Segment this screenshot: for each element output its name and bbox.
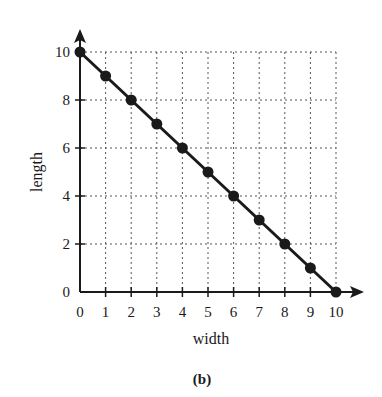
y-tick-label: 10: [55, 44, 70, 60]
data-point: [100, 71, 111, 82]
axes: [74, 29, 364, 298]
x-tick-label: 8: [281, 304, 289, 320]
x-tick-label: 10: [329, 304, 344, 320]
y-tick-label: 2: [63, 236, 71, 252]
x-tick-label: 9: [307, 304, 315, 320]
y-tick-label: 8: [63, 92, 71, 108]
data-point: [151, 119, 162, 130]
tick-labels: 0123456789100246810: [55, 44, 344, 320]
data-point: [228, 191, 239, 202]
x-tick-label: 7: [255, 304, 263, 320]
x-tick-label: 2: [127, 304, 135, 320]
line-chart: 0123456789100246810 length width (b): [0, 0, 382, 397]
data-point: [177, 143, 188, 154]
data-point: [203, 167, 214, 178]
y-axis-label: length: [28, 152, 46, 192]
figure-caption: (b): [193, 371, 211, 388]
x-axis-label: width: [193, 330, 229, 347]
x-tick-label: 1: [102, 304, 110, 320]
y-tick-label: 4: [63, 188, 71, 204]
data-point: [75, 47, 86, 58]
x-tick-label: 6: [230, 304, 238, 320]
x-tick-label: 5: [204, 304, 212, 320]
y-tick-label: 0: [63, 284, 71, 300]
data-point: [254, 215, 265, 226]
data-point: [305, 263, 316, 274]
data-point: [331, 287, 342, 298]
data-point: [279, 239, 290, 250]
data-series: [75, 47, 342, 298]
x-tick-label: 4: [179, 304, 187, 320]
y-tick-label: 6: [63, 140, 71, 156]
data-point: [126, 95, 137, 106]
x-tick-label: 3: [153, 304, 161, 320]
x-tick-label: 0: [76, 304, 84, 320]
